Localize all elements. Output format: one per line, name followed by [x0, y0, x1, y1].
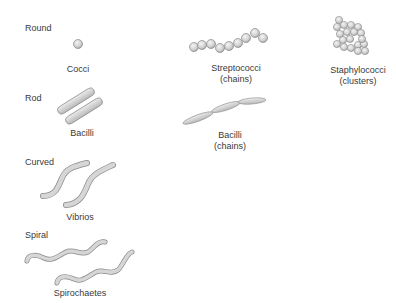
spirochaetes-shape	[27, 242, 132, 283]
caption-streptococci: Streptococci (chains)	[196, 63, 276, 85]
cocci-name: Cocci	[48, 64, 108, 75]
caption-spirochaetes: Spirochaetes	[40, 288, 120, 299]
caption-staphylococci: Staphylococci (clusters)	[318, 65, 396, 87]
streptococci-shape	[190, 29, 268, 53]
category-label-spiral: Spiral	[25, 230, 48, 240]
caption-vibrios: Vibrios	[50, 212, 110, 223]
cocci-shape	[74, 40, 83, 49]
staphylococci-note: (clusters)	[318, 76, 396, 87]
staphylococci-name: Staphylococci	[318, 65, 396, 76]
bacilli-shape	[56, 86, 104, 125]
streptococci-note: (chains)	[196, 74, 276, 85]
category-label-curved: Curved	[25, 157, 54, 167]
vibrios-shape	[43, 163, 113, 205]
bacilli-name: Bacilli	[52, 128, 112, 139]
caption-bacilli: Bacilli	[52, 128, 112, 139]
vibrios-name: Vibrios	[50, 212, 110, 223]
staphylococci-shape	[333, 16, 368, 54]
caption-cocci: Cocci	[48, 64, 108, 75]
category-label-rod: Rod	[25, 93, 42, 103]
streptococci-name: Streptococci	[196, 63, 276, 74]
category-label-round: Round	[25, 23, 52, 33]
bacilli-chains-name: Bacilli	[190, 130, 270, 141]
caption-bacilli-chains: Bacilli (chains)	[190, 130, 270, 152]
bacilli-chains-shape	[182, 97, 266, 127]
spirochaetes-name: Spirochaetes	[40, 288, 120, 299]
bacilli-chains-note: (chains)	[190, 141, 270, 152]
